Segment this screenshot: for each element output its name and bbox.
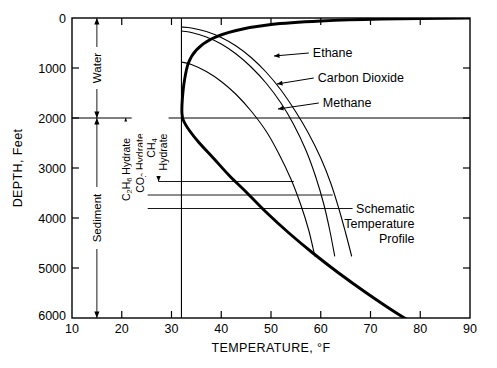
y-tick-label: 0: [59, 12, 66, 26]
y-tick-label: 4000: [38, 212, 66, 226]
x-tick-label: 30: [165, 322, 179, 336]
y-axis-title: DEPTH, Feet: [11, 129, 25, 208]
leader-carbon-dioxide: [277, 78, 314, 85]
annotation-schematic-line-1: Schematic: [356, 202, 414, 216]
ch4-hydrate-label-word: Hydrate: [157, 133, 169, 170]
x-axis-title: TEMPERATURE, °F: [211, 341, 330, 355]
x-tick-label: 60: [314, 322, 328, 336]
x-tick-label: 50: [264, 322, 278, 336]
annotation-carbon-dioxide: Carbon Dioxide: [318, 71, 404, 85]
y-tick-label: 5000: [38, 262, 66, 276]
water-label: Water: [91, 53, 103, 83]
y-tick-label: 1000: [38, 62, 66, 76]
x-tick-label: 80: [413, 322, 427, 336]
x-tick-label: 10: [65, 322, 79, 336]
curve-methane: [181, 27, 351, 256]
sediment-label: Sediment: [91, 193, 103, 242]
annotation-schematic-line-2: Temperature: [344, 217, 414, 231]
chart-figure: 1020304050607080900100020003000400050006…: [0, 0, 497, 368]
annotation-ethane: Ethane: [313, 46, 353, 60]
y-tick-label: 6000: [38, 309, 66, 323]
y-tick-label: 3000: [38, 162, 66, 176]
annotation-methane: Methane: [323, 96, 372, 110]
leader-ethane: [274, 53, 309, 58]
curves-group: [181, 18, 470, 326]
hydrate-stability-chart: 1020304050607080900100020003000400050006…: [0, 0, 497, 368]
x-tick-label: 70: [364, 322, 378, 336]
annotation-schematic-line-3: Profile: [379, 232, 414, 246]
x-tick-label: 40: [214, 322, 228, 336]
x-tick-label: 20: [115, 322, 129, 336]
curve-carbon-dioxide: [181, 31, 334, 256]
x-tick-label: 90: [463, 322, 477, 336]
y-tick-label: 2000: [38, 112, 66, 126]
leader-methane: [278, 103, 319, 111]
curve-ethane: [181, 62, 314, 256]
